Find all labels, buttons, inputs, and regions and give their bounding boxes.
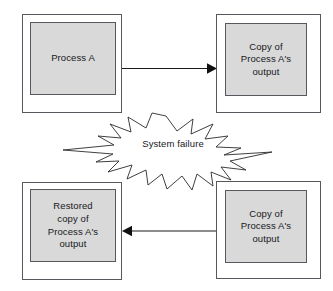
node-copy-output-bottom: Copy of Process A's output xyxy=(216,181,321,279)
node-copy-output-top-label: Copy of Process A's output xyxy=(225,23,307,96)
node-restored-copy-label: Restored copy of Process A's output xyxy=(30,189,116,262)
burst-outline xyxy=(63,113,272,190)
node-copy-output-top: Copy of Process A's output xyxy=(216,14,321,113)
node-restored-copy: Restored copy of Process A's output xyxy=(22,182,122,280)
node-process-a: Process A xyxy=(22,14,122,113)
arrow-bottom-head xyxy=(122,226,132,237)
node-copy-output-bottom-label: Copy of Process A's output xyxy=(225,190,307,263)
system-failure-label: System failure xyxy=(128,138,218,149)
arrow-bottom xyxy=(122,226,216,237)
system-failure-burst-icon xyxy=(63,113,272,190)
node-process-a-label: Process A xyxy=(30,22,116,95)
arrow-top xyxy=(122,63,217,74)
